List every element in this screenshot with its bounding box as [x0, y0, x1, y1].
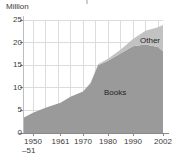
series-label-books: Books	[104, 88, 126, 97]
area-series-books	[23, 44, 163, 133]
y-tick-label: 15	[0, 61, 22, 69]
x-tick-sublabel: –51	[22, 146, 35, 155]
y-tick-label: 20	[0, 39, 22, 47]
chart-container: Million 0510152025 1950–5119611970198019…	[0, 0, 172, 160]
y-tick-label: 0	[0, 129, 22, 137]
area-chart-plot	[0, 0, 172, 160]
x-tick-label: 1950	[20, 137, 46, 146]
y-tick-label: 5	[0, 106, 22, 114]
x-tick-label: 1990	[120, 137, 146, 146]
x-tick-label: 1980	[95, 137, 121, 146]
x-tick-label: 1970	[70, 137, 96, 146]
y-tick-label: 10	[0, 84, 22, 92]
x-tick-label: 2002	[150, 137, 172, 146]
series-label-other: Other	[140, 36, 160, 45]
y-tick-label: 25	[0, 16, 22, 24]
